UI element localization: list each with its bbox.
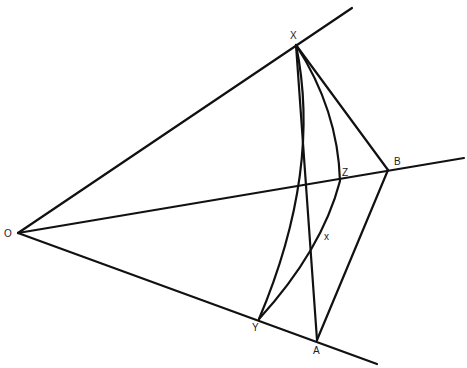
label-O: O — [4, 228, 12, 239]
label-x: x — [324, 231, 329, 242]
label-Z: Z — [342, 167, 348, 178]
ray-OB — [18, 158, 464, 233]
label-X: X — [290, 30, 297, 41]
segment-BA — [317, 170, 388, 340]
geometric-diagram: O X B Z x Y A — [0, 0, 467, 368]
label-B: B — [394, 156, 401, 167]
label-Y: Y — [252, 322, 259, 333]
arc-XY-inner — [259, 45, 304, 319]
ray-OA — [18, 233, 377, 364]
segment-XB — [296, 45, 388, 170]
segment-XA — [296, 45, 317, 340]
label-A: A — [313, 345, 320, 356]
